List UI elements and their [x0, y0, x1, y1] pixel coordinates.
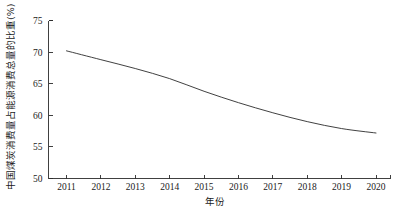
x-tick-label: 2016 [229, 182, 248, 192]
line-chart: 中国煤炭消费量占能源消费总量的比重(%) 年份 505560657075 201… [0, 0, 410, 223]
x-tick-label: 2011 [57, 182, 76, 192]
y-tick-label: 50 [33, 174, 43, 184]
y-tick-label: 60 [33, 111, 43, 121]
y-tick-label: 70 [33, 48, 43, 58]
x-tick-label: 2015 [195, 182, 214, 192]
x-axis-title: 年份 [205, 196, 225, 207]
x-axis-title-group: 年份 [205, 196, 225, 207]
chart-figure: 中国煤炭消费量占能源消费总量的比重(%) 年份 505560657075 201… [0, 0, 410, 223]
coal-share-line [67, 51, 377, 133]
x-axis-tick-labels: 2011201220132014201520162017201820192020 [57, 182, 386, 192]
x-tick-label: 2018 [298, 182, 317, 192]
y-tick-label: 75 [33, 16, 43, 26]
y-axis-title-group: 中国煤炭消费量占能源消费总量的比重(%) [5, 4, 16, 190]
y-tick-label: 55 [33, 142, 43, 152]
plot-axes [49, 21, 391, 179]
x-tick-label: 2019 [332, 182, 351, 192]
x-tick-label: 2014 [160, 182, 179, 192]
x-tick-label: 2013 [126, 182, 145, 192]
y-axis-tick-labels: 505560657075 [33, 16, 43, 184]
x-tick-label: 2012 [91, 182, 110, 192]
y-axis-title: 中国煤炭消费量占能源消费总量的比重(%) [5, 4, 16, 190]
y-tick-label: 65 [33, 79, 43, 89]
y-axis-tick-marks [49, 21, 53, 179]
x-axis-tick-marks [67, 175, 377, 179]
x-tick-label: 2017 [263, 182, 282, 192]
x-tick-label: 2020 [367, 182, 386, 192]
